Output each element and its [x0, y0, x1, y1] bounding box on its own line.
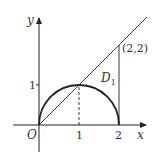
line-y-equals-x	[39, 17, 147, 125]
x-axis-label: x	[137, 128, 144, 142]
point-label: (2,2)	[122, 42, 148, 55]
region-label: D1	[100, 71, 116, 87]
y-tick-label-1: 1	[29, 79, 36, 92]
origin-label: O	[27, 128, 37, 142]
x-tick-label-2: 2	[115, 129, 122, 142]
y-axis-label: y	[26, 13, 34, 27]
region-subscript: 1	[111, 78, 116, 87]
x-tick-label-1: 1	[76, 129, 83, 142]
diagram-canvas: y x O 1 1 2 (2,2) D1	[0, 0, 157, 158]
